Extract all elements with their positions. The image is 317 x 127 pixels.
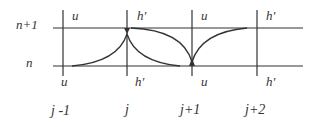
top-label-u-2: u [201, 8, 208, 23]
column-label-j-plus-1: j+1 [178, 102, 200, 117]
column-label-j-minus-1: j -1 [49, 103, 70, 118]
row-label-n-plus-1: n+1 [16, 17, 38, 32]
top-label-u-1: u [72, 8, 79, 23]
cusp-j [124, 28, 130, 34]
curve-j-plus-1-to-j-plus-2 [192, 28, 247, 62]
top-label-h-1: h' [137, 8, 147, 23]
row-label-n: n [26, 55, 33, 70]
bottom-label-u-1: u [61, 74, 68, 89]
column-label-j: j [123, 102, 129, 117]
curve-j-top-to-j-plus-1 [131, 28, 192, 62]
bottom-label-h-2: h' [266, 74, 276, 89]
bottom-label-u-2: u [201, 74, 208, 89]
cusp-j-plus-1 [189, 58, 195, 66]
top-label-h-2: h' [266, 8, 276, 23]
column-label-j-plus-2: j+2 [243, 102, 265, 117]
curve-j-to-j-plus-1 [127, 34, 180, 66]
bottom-label-h-1: h' [135, 74, 145, 89]
curve-j-minus-1-to-j [72, 34, 127, 66]
grid-diagram: n+1 n u h' u h' u h' u h' j -1 j j+1 j+2 [0, 0, 317, 127]
